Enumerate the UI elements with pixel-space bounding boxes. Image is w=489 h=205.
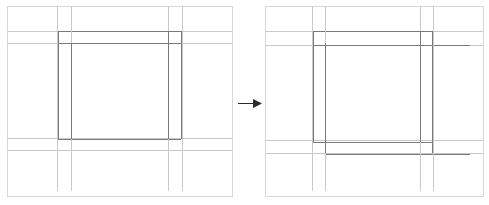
transition-arrow <box>238 99 262 108</box>
figure-canvas <box>0 0 489 205</box>
before-panel <box>7 6 233 197</box>
arrow-head-icon <box>253 99 262 108</box>
line-diagram-figure <box>0 0 489 205</box>
panels-layer <box>7 6 484 197</box>
after-panel <box>265 6 484 197</box>
arrow-layer <box>238 99 262 108</box>
after-panel-border <box>266 7 484 197</box>
before-panel-border <box>8 7 233 197</box>
